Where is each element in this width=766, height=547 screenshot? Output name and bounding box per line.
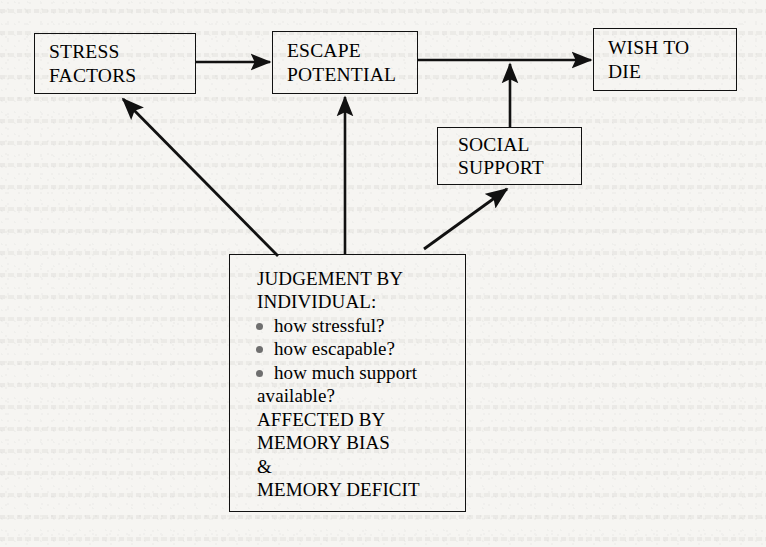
judgement-footer: AFFECTED BY MEMORY BIAS & MEMORY DEFICIT xyxy=(257,408,465,502)
judgement-bullet-list: how stressful? how escapable? how much s… xyxy=(257,314,465,408)
bullet-dot-icon xyxy=(256,346,263,353)
list-item: how much support available? xyxy=(257,361,465,408)
judgement-bullet-continuation: available? xyxy=(257,384,465,407)
node-social-support-label: SOCIAL SUPPORT xyxy=(458,133,544,180)
node-wish-to-die[interactable]: WISH TO DIE xyxy=(593,28,737,91)
scanned-page: STRESS FACTORS ESCAPE POTENTIAL WISH TO … xyxy=(0,0,766,547)
node-stress-factors-label: STRESS FACTORS xyxy=(49,40,136,87)
arrow-judgement-to-stress xyxy=(123,99,278,256)
node-escape-potential-label: ESCAPE POTENTIAL xyxy=(287,39,396,86)
node-stress-factors[interactable]: STRESS FACTORS xyxy=(34,33,196,94)
arrow-judgement-to-social xyxy=(424,189,507,249)
judgement-bullet-text: how escapable? xyxy=(274,338,395,359)
node-escape-potential[interactable]: ESCAPE POTENTIAL xyxy=(272,31,418,94)
bullet-dot-icon xyxy=(256,370,263,377)
list-item: how stressful? xyxy=(257,314,465,337)
node-social-support[interactable]: SOCIAL SUPPORT xyxy=(437,127,582,185)
bullet-dot-icon xyxy=(256,323,263,330)
judgement-bullet-text: how much support xyxy=(274,362,417,383)
node-wish-to-die-label: WISH TO DIE xyxy=(608,36,689,83)
judgement-bullet-text: how stressful? xyxy=(274,315,385,336)
node-judgement-by-individual[interactable]: JUDGEMENT BY INDIVIDUAL: how stressful? … xyxy=(229,254,466,512)
judgement-header: JUDGEMENT BY INDIVIDUAL: xyxy=(257,267,465,314)
list-item: how escapable? xyxy=(257,337,465,360)
